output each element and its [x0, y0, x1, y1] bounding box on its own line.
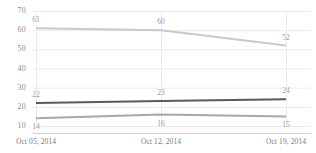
x-axis-tick-label: Oct 12, 2014 [121, 138, 201, 146]
data-point-label: 60 [152, 18, 170, 26]
x-axis-tick-label: Oct 05, 2014 [0, 138, 76, 146]
data-point-label: 24 [277, 87, 295, 95]
y-axis-tick-label: 10 [6, 122, 26, 130]
y-axis-tick-label: 60 [6, 26, 26, 34]
data-point-label: 61 [27, 16, 45, 24]
y-axis-tick-label: 50 [6, 45, 26, 53]
x-axis-tick-label: Oct 19, 2014 [246, 138, 316, 146]
line-chart: 10203040506070Oct 05, 2014Oct 12, 2014Oc… [0, 0, 316, 153]
y-axis-tick-label: 70 [6, 7, 26, 15]
data-point-label: 22 [27, 91, 45, 99]
data-point-label: 16 [152, 120, 170, 128]
data-point-label: 52 [277, 34, 295, 42]
data-point-label: 14 [27, 123, 45, 131]
y-axis-tick-label: 40 [6, 65, 26, 73]
data-point-label: 23 [152, 89, 170, 97]
y-axis-tick-label: 30 [6, 84, 26, 92]
y-axis-tick-label: 20 [6, 103, 26, 111]
data-point-label: 15 [277, 121, 295, 129]
